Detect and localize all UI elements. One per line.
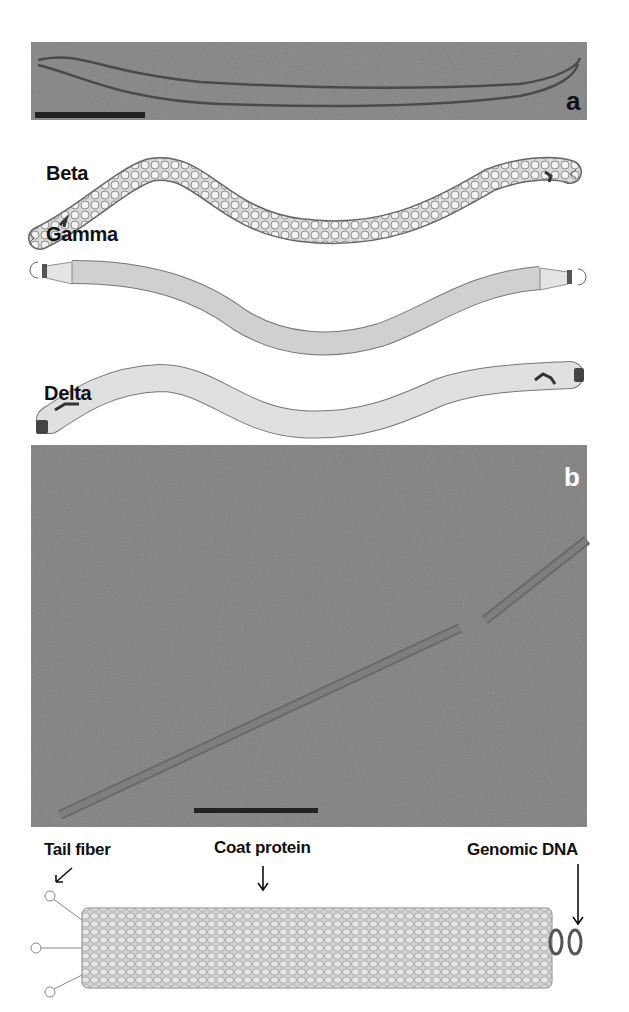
scale-bar — [35, 112, 145, 118]
label-beta: Beta — [46, 162, 88, 185]
annotation-coat-protein: Coat protein — [214, 838, 311, 858]
delta-schematic — [36, 368, 584, 434]
panel-letter-b: b — [564, 462, 580, 493]
panel-a-micrograph — [31, 42, 587, 120]
panel-b-micrograph — [31, 445, 587, 827]
label-delta: Delta — [44, 382, 91, 405]
label-gamma: Gamma — [46, 223, 118, 246]
figure-canvas — [0, 0, 629, 1012]
annotation-tail-fiber: Tail fiber — [44, 840, 111, 860]
annotation-genomic-dna: Genomic DNA — [467, 840, 578, 860]
gamma-schematic — [30, 262, 586, 343]
panel-letter-a: a — [566, 86, 580, 117]
scale-bar — [194, 808, 318, 813]
phage-model — [31, 864, 583, 997]
